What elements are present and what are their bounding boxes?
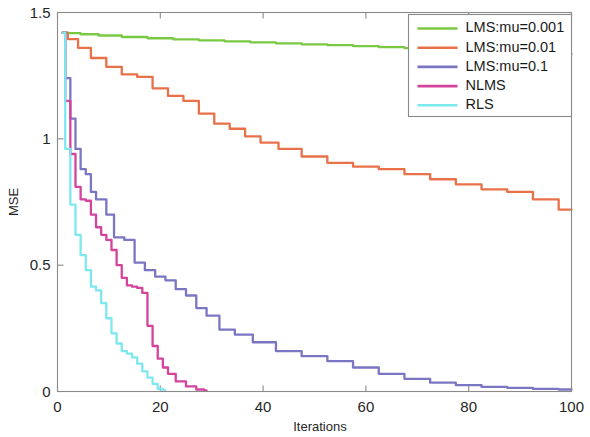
x-tick-label: 40 <box>255 398 272 415</box>
x-tick-label: 60 <box>358 398 375 415</box>
chart-canvas: 00.511.5020406080100 MSE Iterations LMS:… <box>0 0 590 437</box>
chart-legend[interactable]: LMS:mu=0.001LMS:mu=0.01LMS:mu=0.1NLMSRLS <box>409 15 572 117</box>
legend-label: NLMS <box>466 77 506 93</box>
x-tick-label: 100 <box>559 398 584 415</box>
y-axis-label: MSE <box>6 188 21 217</box>
y-tick-label: 0.5 <box>30 256 51 273</box>
x-tick-label: 80 <box>460 398 477 415</box>
x-tick-label: 20 <box>152 398 169 415</box>
legend-label: LMS:mu=0.001 <box>466 19 565 35</box>
mse-convergence-chart: 00.511.5020406080100 MSE Iterations LMS:… <box>0 0 590 437</box>
y-tick-label: 0 <box>42 383 50 400</box>
y-tick-label: 1.5 <box>30 4 51 21</box>
x-tick-label: 0 <box>53 398 61 415</box>
series-line-rls <box>63 33 166 391</box>
series-line-nlms <box>63 33 207 391</box>
x-axis-label: Iterations <box>293 419 347 434</box>
y-tick-label: 1 <box>42 130 50 147</box>
legend-label: LMS:mu=0.01 <box>466 39 557 55</box>
legend-label: LMS:mu=0.1 <box>466 58 549 74</box>
legend-label: RLS <box>466 96 494 112</box>
